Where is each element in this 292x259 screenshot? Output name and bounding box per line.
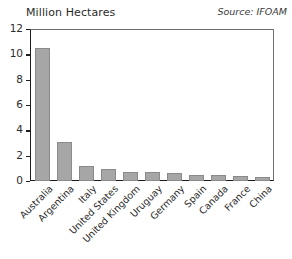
y-axis-tick-mark (26, 181, 30, 182)
bar (211, 175, 226, 181)
bars-container (32, 29, 274, 181)
y-axis-tick-mark (26, 130, 30, 131)
y-axis-tick-mark (26, 80, 30, 81)
y-axis-tick-mark (26, 105, 30, 106)
source-annotation: Source: IFOAM (218, 6, 288, 17)
x-axis-labels: AustraliaArgentinaItalyUnited StatesUnit… (32, 183, 274, 257)
x-axis-label: China (247, 183, 274, 210)
bar (233, 176, 248, 181)
y-axis-tick-mark (26, 54, 30, 55)
y-axis-tick-label: 4 (16, 123, 23, 135)
y-axis-tick-label: 10 (10, 47, 23, 59)
bar (255, 177, 270, 181)
y-axis-tick-label: 8 (16, 73, 23, 85)
y-axis-tick-label: 12 (10, 22, 23, 34)
bar (189, 175, 204, 181)
y-axis-tick-label: 0 (16, 174, 23, 186)
bar (57, 142, 72, 181)
organic-farmland-bar-chart: Million Hectares Source: IFOAM 024681012… (0, 0, 292, 259)
bar (79, 166, 94, 181)
bar (123, 172, 138, 181)
bar (35, 48, 50, 181)
y-axis-tick-label: 2 (16, 149, 23, 161)
y-axis-title: Million Hectares (26, 6, 115, 19)
y-axis-tick-mark (26, 156, 30, 157)
bar (167, 173, 182, 181)
y-axis-tick-label: 6 (16, 98, 23, 110)
y-axis-tick-mark (26, 29, 30, 30)
bar (145, 172, 160, 181)
bar (101, 169, 116, 181)
